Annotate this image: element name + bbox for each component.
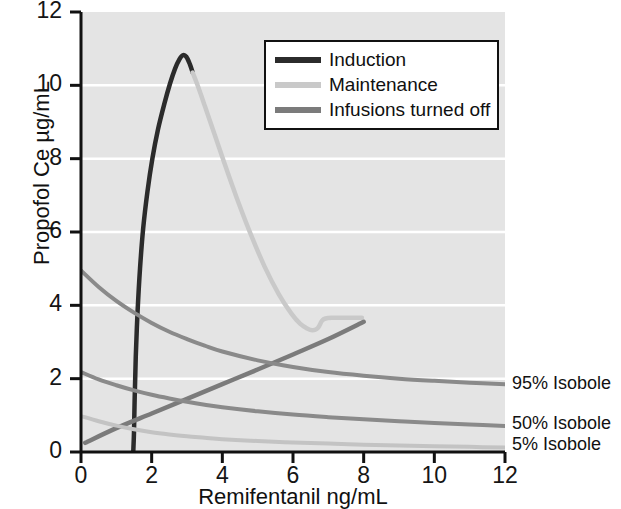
- y-tick-label: 12: [0, 0, 62, 24]
- x-axis-title: Remifentanil ng/mL: [81, 484, 505, 509]
- legend-swatch-maintenance: [275, 82, 321, 88]
- legend-label-induction: Induction: [329, 50, 406, 69]
- annotation-50-isobole: 50% Isobole: [512, 413, 611, 434]
- y-axis-title: Propofol Ce µg/mL: [29, 23, 55, 323]
- legend-swatch-infusions-turned-off: [275, 107, 321, 113]
- legend-swatch-induction: [275, 57, 321, 63]
- chart-figure: 024681012 024681012 Propofol Ce µg/mL Re…: [0, 0, 621, 509]
- y-tick-label: 2: [0, 364, 62, 391]
- y-tick-label: 0: [0, 437, 62, 464]
- legend-item-infusions-turned-off: Infusions turned off: [275, 97, 488, 122]
- legend-label-maintenance: Maintenance: [329, 75, 438, 94]
- annotation-95-isobole: 95% Isobole: [512, 373, 611, 394]
- legend-item-maintenance: Maintenance: [275, 72, 488, 97]
- chart-legend: Induction Maintenance Infusions turned o…: [264, 40, 499, 130]
- annotation-5-isobole: 5% Isobole: [512, 434, 601, 455]
- legend-label-infusions-turned-off: Infusions turned off: [329, 100, 490, 119]
- legend-item-induction: Induction: [275, 47, 488, 72]
- y-axis-title-text: Propofol Ce µg/mL: [29, 81, 54, 265]
